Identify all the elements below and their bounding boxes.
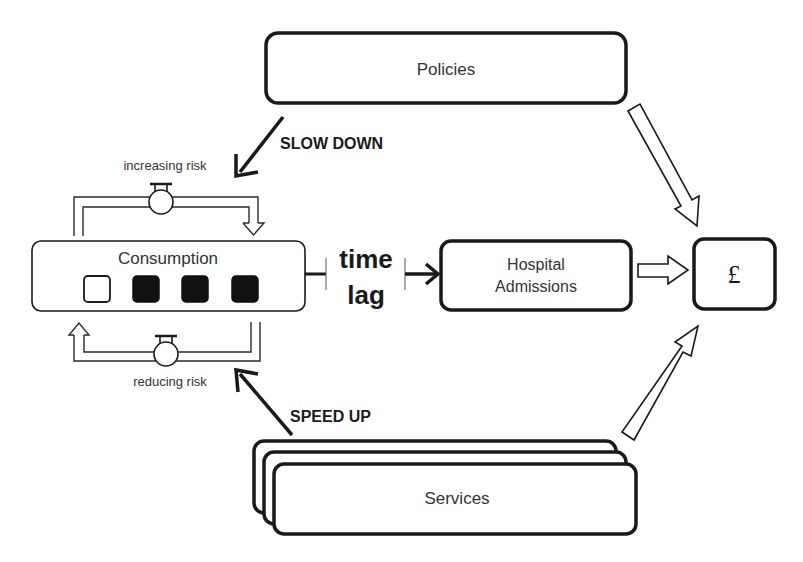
indicator-empty [84, 276, 110, 302]
slow-down-label: SLOW DOWN [280, 135, 383, 152]
services-node[interactable]: Services [254, 441, 636, 534]
policies-to-cost-arrow [628, 104, 699, 226]
speed-up-label: SPEED UP [290, 408, 371, 425]
slow-down-arrow [236, 117, 283, 176]
policies-node[interactable]: Policies [266, 33, 626, 103]
pound-sign-icon: £ [728, 260, 741, 289]
hospital-label-line2: Admissions [495, 278, 577, 295]
reducing-risk-label: reducing risk [133, 374, 207, 389]
indicator-filled [232, 276, 258, 302]
increasing-risk-valve-icon[interactable] [149, 184, 173, 214]
time-lag-label-line2: lag [347, 280, 385, 310]
indicator-filled [133, 276, 159, 302]
increasing-risk-label: increasing risk [123, 158, 207, 173]
indicator-filled [182, 276, 208, 302]
services-label: Services [424, 489, 489, 508]
consumption-label: Consumption [118, 249, 218, 268]
cost-node[interactable]: £ [694, 239, 775, 309]
consumption-node[interactable]: Consumption [32, 241, 305, 311]
speed-up-arrow [236, 370, 292, 435]
hospital-label-line1: Hospital [507, 256, 565, 273]
time-lag-label-line1: time [339, 244, 392, 274]
reducing-risk-valve-icon[interactable] [154, 336, 178, 366]
services-to-cost-arrow [622, 326, 698, 440]
diagram-canvas: Policies SLOW DOWN increasing risk Consu… [0, 0, 803, 562]
hospital-to-cost-arrow [638, 256, 688, 284]
policies-label: Policies [417, 60, 476, 79]
hospital-admissions-node[interactable]: Hospital Admissions [441, 241, 631, 310]
